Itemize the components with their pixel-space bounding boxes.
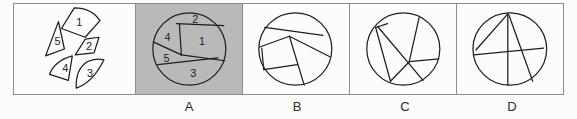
piece-number-2: 2 [86, 40, 92, 52]
option-a-number-5: 5 [163, 52, 169, 64]
panel-strip: 1 5 2 4 3 [13, 3, 564, 95]
option-label-b: B [277, 98, 317, 116]
option-b-drawing [243, 4, 349, 94]
prompt-panel-scattered-pieces: 1 5 2 4 3 [14, 4, 136, 94]
puzzle-figure: 1 5 2 4 3 [0, 0, 577, 119]
option-d-drawing [457, 4, 563, 94]
option-panel-d[interactable] [457, 4, 563, 94]
piece-number-1: 1 [76, 16, 82, 28]
option-b-circle [259, 13, 332, 85]
option-label-d: D [492, 98, 532, 116]
option-panel-a[interactable]: 2 1 4 5 3 [136, 4, 244, 94]
option-c-circle [367, 13, 440, 85]
option-label-a: A [169, 98, 209, 116]
option-a-number-4: 4 [164, 31, 170, 43]
piece-number-4: 4 [62, 62, 68, 74]
piece-number-3: 3 [87, 67, 93, 79]
scattered-pieces-drawing: 1 5 2 4 3 [14, 4, 135, 94]
option-label-c: C [385, 98, 425, 116]
option-a-number-1: 1 [199, 35, 205, 47]
option-a-number-3: 3 [190, 67, 196, 79]
option-labels-row: A B C D [13, 96, 564, 118]
piece-number-5: 5 [54, 35, 60, 47]
option-a-number-2: 2 [192, 14, 198, 26]
piece-shape-4 [50, 56, 73, 80]
option-c-drawing [350, 4, 457, 94]
option-panel-c[interactable] [350, 4, 458, 94]
option-panel-b[interactable] [243, 4, 350, 94]
option-a-drawing: 2 1 4 5 3 [136, 4, 243, 94]
